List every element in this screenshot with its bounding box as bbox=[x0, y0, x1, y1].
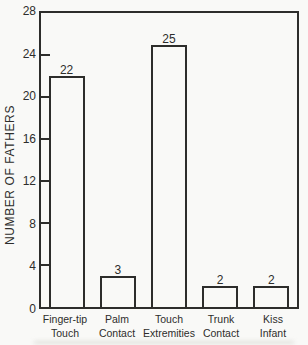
scan-artifact-smudge bbox=[34, 341, 294, 344]
y-tick-label-8: 8 bbox=[0, 217, 36, 231]
x-axis-label-4: Kiss Infant bbox=[247, 312, 299, 340]
bar-value-label-0: 22 bbox=[60, 64, 73, 76]
y-tick-label-0: 0 bbox=[0, 302, 36, 316]
y-tick-label-16: 16 bbox=[0, 132, 36, 146]
plot-area: 2232522 bbox=[39, 11, 299, 309]
y-tick-mark-24 bbox=[41, 54, 50, 56]
y-tick-mark-20 bbox=[41, 96, 50, 98]
bar-value-label-3: 2 bbox=[217, 274, 224, 286]
y-tick-mark-4 bbox=[41, 264, 50, 266]
x-axis-label-2: Touch Extremities bbox=[143, 312, 195, 340]
y-tick-mark-16 bbox=[41, 138, 50, 140]
bar-0: 22 bbox=[49, 76, 85, 307]
bar-4: 2 bbox=[253, 286, 289, 307]
y-tick-label-28: 28 bbox=[0, 4, 36, 18]
x-axis-label-0: Finger-tip Touch bbox=[39, 312, 91, 340]
bar-chart-figure: NUMBER OF FATHERS 2232522 Finger-tip Tou… bbox=[0, 0, 308, 345]
bar-3: 2 bbox=[202, 286, 238, 307]
y-tick-label-12: 12 bbox=[0, 174, 36, 188]
bar-2: 25 bbox=[151, 45, 187, 308]
y-tick-label-24: 24 bbox=[0, 47, 36, 61]
bars-container: 2232522 bbox=[41, 13, 297, 307]
y-tick-label-20: 20 bbox=[0, 89, 36, 103]
x-axis-labels: Finger-tip TouchPalm ContactTouch Extrem… bbox=[39, 312, 299, 340]
x-axis-label-1: Palm Contact bbox=[91, 312, 143, 340]
y-tick-mark-12 bbox=[41, 180, 50, 182]
bar-value-label-2: 25 bbox=[162, 33, 175, 45]
x-axis-label-3: Trunk Contact bbox=[195, 312, 247, 340]
bar-1: 3 bbox=[100, 276, 136, 308]
y-tick-label-4: 4 bbox=[0, 259, 36, 273]
bar-value-label-1: 3 bbox=[114, 264, 121, 276]
y-tick-mark-8 bbox=[41, 222, 50, 224]
bar-value-label-4: 2 bbox=[268, 274, 275, 286]
